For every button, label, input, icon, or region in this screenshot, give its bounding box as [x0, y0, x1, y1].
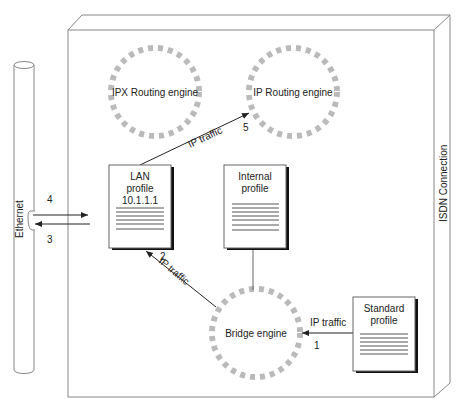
lan-profile-line1: LAN: [130, 171, 149, 182]
ip-routing-engine: IP Routing engine: [249, 48, 337, 136]
ipx-engine-label: IPX Routing engine: [112, 87, 199, 98]
lan-profile: LAN profile 10.1.1.1: [109, 165, 174, 250]
ip-engine-label: IP Routing engine: [253, 87, 333, 98]
standard-profile: Standard profile: [353, 297, 418, 373]
flow-1-label: IP traffic: [310, 317, 346, 328]
diagram-canvas: ISDN Connection Ethernet 4 3 IPX Routing…: [0, 0, 462, 409]
lan-profile-line3: 10.1.1.1: [122, 195, 159, 206]
ethernet-label: Ethernet: [14, 200, 25, 238]
bridge-engine-label: Bridge engine: [225, 328, 287, 339]
ipx-routing-engine: IPX Routing engine: [108, 45, 202, 139]
step-2: 2: [160, 251, 166, 262]
internal-profile: Internal profile: [224, 165, 289, 250]
step-4: 4: [47, 194, 53, 205]
standard-profile-line2: profile: [370, 315, 398, 326]
internal-profile-line2: profile: [241, 183, 269, 194]
bridge-engine: Bridge engine: [212, 289, 300, 377]
standard-profile-line1: Standard: [364, 303, 405, 314]
step-5: 5: [243, 122, 249, 133]
step-1: 1: [314, 340, 320, 351]
step-3: 3: [47, 234, 53, 245]
lan-profile-line2: profile: [126, 183, 154, 194]
internal-profile-line1: Internal: [238, 171, 271, 182]
isdn-connection-label: ISDN Connection: [438, 145, 449, 222]
